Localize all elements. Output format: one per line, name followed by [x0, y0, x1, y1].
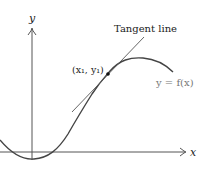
point-label: (x₁, y₁): [72, 64, 104, 75]
y-axis-label: y: [28, 12, 36, 25]
tangent-point: [106, 72, 110, 76]
tangent-diagram: y x Tangent line (x₁, y₁) y = f(x): [0, 0, 201, 174]
tangent-line-label: Tangent line: [114, 23, 177, 34]
curve-label: y = f(x): [155, 77, 194, 88]
x-axis-label: x: [190, 146, 197, 159]
